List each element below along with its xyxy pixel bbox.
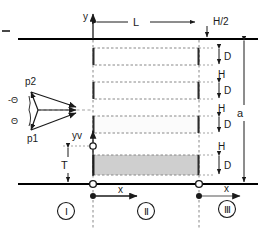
vector-p1-arrow — [31, 113, 76, 130]
x-axis-right-label: x — [224, 183, 229, 194]
region-one: Ⅰ — [58, 203, 75, 220]
figure-canvas: y L H/2 D D D D H H H a yv — [0, 0, 263, 231]
dimension-T: T — [59, 146, 93, 182]
a-label: a — [237, 107, 244, 119]
D-label-3: D — [224, 119, 231, 130]
region-three: Ⅲ — [219, 201, 236, 218]
D-label-4: D — [224, 160, 231, 171]
node-right-wall — [196, 181, 203, 188]
dimension-H-half: H/2 — [207, 16, 229, 37]
H-half-label: H/2 — [213, 16, 229, 27]
L-label: L — [133, 16, 139, 28]
x-origin-left-dot — [90, 193, 96, 199]
y-axis-label: y — [83, 11, 88, 22]
dimension-L: L — [97, 14, 195, 29]
H-label-2: H — [218, 103, 225, 114]
x-axis-left-label: x — [118, 184, 123, 195]
vector-p1-label: p1 — [27, 133, 39, 144]
region-two-label: Ⅱ — [144, 206, 149, 217]
D-label-2: D — [224, 85, 231, 96]
D-label-1: D — [224, 51, 231, 62]
x-origin-right-dot — [196, 193, 202, 199]
x-axis-left-group: x — [90, 184, 137, 199]
node-yv-origin — [90, 143, 96, 149]
dimension-H-group: H H H — [218, 69, 225, 152]
yv-axis-label: yv — [72, 130, 82, 141]
H-label-1: H — [218, 69, 225, 80]
region-two: Ⅱ — [138, 203, 155, 220]
T-label: T — [61, 159, 68, 171]
vector-p1-tail — [31, 110, 38, 130]
region-one-label: Ⅰ — [65, 206, 68, 217]
vector-p2-label: p2 — [25, 76, 37, 87]
block-1 — [93, 48, 199, 65]
node-left-wall — [90, 181, 97, 188]
block-3 — [93, 116, 199, 133]
dimension-a: a — [235, 41, 251, 182]
extension-lines — [199, 48, 213, 175]
angle-arc-upper — [29, 96, 30, 110]
vector-p2-arrow — [31, 92, 76, 107]
H-label-3: H — [218, 141, 225, 152]
block-4 — [93, 155, 199, 175]
block-2 — [93, 82, 199, 99]
region-three-label: Ⅲ — [224, 204, 231, 215]
angle-upper-label: -Θ — [8, 95, 18, 105]
angle-arc-lower — [29, 110, 31, 126]
schematic-svg: y L H/2 D D D D H H H a yv — [0, 0, 263, 231]
angle-lower-label: Θ — [11, 116, 18, 126]
vector-p2-tail — [31, 92, 38, 110]
